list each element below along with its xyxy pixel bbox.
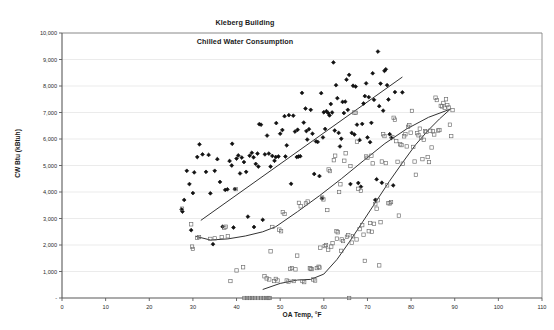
data-point-diamond: [387, 98, 391, 102]
data-point-diamond: [244, 170, 248, 174]
data-point-diamond: [376, 50, 380, 54]
data-point-diamond: [338, 145, 342, 149]
data-point-diamond: [381, 109, 385, 113]
data-point-diamond: [248, 154, 252, 158]
x-axis-tick-label: 20: [146, 304, 152, 310]
data-point-square: [220, 235, 223, 238]
data-point-diamond: [242, 160, 246, 164]
data-point-diamond: [337, 131, 341, 135]
data-point-square: [263, 275, 266, 278]
data-point-square: [404, 133, 407, 136]
data-point-diamond: [362, 102, 366, 106]
data-point-square: [450, 134, 453, 137]
data-point-diamond: [400, 90, 404, 94]
data-point-diamond: [363, 94, 367, 98]
data-point-square: [343, 159, 346, 162]
data-point-square: [375, 207, 378, 210]
y-axis-ticks: -1,0002,0003,0004,0005,0006,0007,0008,00…: [40, 30, 62, 301]
data-point-diamond: [280, 128, 284, 132]
data-point-diamond: [270, 154, 274, 158]
data-point-diamond: [211, 242, 215, 246]
x-axis-tick-label: 110: [538, 304, 547, 310]
data-point-square: [448, 123, 451, 126]
data-point-square: [319, 246, 322, 249]
data-point-diamond: [334, 83, 338, 87]
x-axis-tick-label: 100: [494, 304, 503, 310]
data-point-diamond: [375, 177, 379, 181]
data-point-square: [349, 164, 352, 167]
y-axis-tick-label: 6,000: [43, 136, 57, 142]
data-point-square: [414, 173, 417, 176]
data-point-diamond: [278, 132, 282, 136]
data-point-diamond: [252, 155, 256, 159]
data-point-square: [409, 131, 412, 134]
data-point-diamond: [335, 96, 339, 100]
x-axis-ticks: 0102030405060708090100110: [60, 298, 546, 310]
data-point-diamond: [345, 78, 349, 82]
data-point-diamond: [213, 169, 217, 173]
data-point-diamond: [380, 181, 384, 185]
data-point-diamond: [232, 226, 236, 230]
series-filled-diamond: [180, 50, 405, 246]
chart-container: Kleberg Building Chilled Water Consumpti…: [0, 0, 554, 330]
data-point-diamond: [371, 71, 375, 75]
data-point-diamond: [291, 114, 295, 118]
data-point-square: [332, 159, 335, 162]
data-point-square: [402, 135, 405, 138]
x-axis-tick-label: 10: [103, 304, 109, 310]
data-point-square: [416, 131, 419, 134]
data-point-square: [362, 233, 365, 236]
data-point-diamond: [189, 228, 193, 232]
data-point-diamond: [300, 91, 304, 95]
data-point-diamond: [198, 142, 202, 146]
gridlines: [62, 33, 542, 272]
data-point-square: [397, 214, 400, 217]
y-axis-title-wrapper: CW Btu (kBtuh): [4, 0, 18, 330]
data-point-square: [434, 96, 437, 99]
data-point-diamond: [284, 155, 288, 159]
data-point-square: [344, 152, 347, 155]
data-point-square: [229, 279, 232, 282]
data-point-diamond: [309, 108, 313, 112]
data-point-square: [226, 235, 229, 238]
data-point-diamond: [201, 152, 205, 156]
data-point-diamond: [364, 81, 368, 85]
data-point-diamond: [304, 107, 308, 111]
data-point-diamond: [359, 185, 363, 189]
data-point-square: [447, 106, 450, 109]
data-point-diamond: [346, 108, 350, 112]
data-point-square: [350, 241, 353, 244]
data-point-diamond: [238, 172, 242, 176]
data-point-square: [326, 208, 329, 211]
data-point-square: [371, 162, 374, 165]
data-point-diamond: [246, 215, 250, 219]
y-axis-tick-label: 1,000: [43, 269, 57, 275]
x-axis-tick-label: 90: [452, 304, 458, 310]
data-point-diamond: [339, 137, 343, 141]
data-point-diamond: [320, 196, 324, 200]
data-point-diamond: [342, 111, 346, 115]
data-point-diamond: [204, 170, 208, 174]
y-axis-tick-label: 5,000: [43, 163, 57, 169]
data-point-diamond: [274, 121, 278, 125]
data-point-square: [378, 264, 381, 267]
data-point-diamond: [368, 140, 372, 144]
data-point-diamond: [332, 61, 336, 65]
x-axis-tick-label: 60: [321, 304, 327, 310]
data-point-square: [331, 241, 334, 244]
data-point-diamond: [188, 182, 192, 186]
data-point-square: [421, 157, 424, 160]
data-point-diamond: [215, 157, 219, 161]
data-point-square: [336, 231, 339, 234]
data-point-diamond: [287, 113, 291, 117]
data-point-diamond: [230, 142, 234, 146]
data-point-square: [294, 268, 297, 271]
data-point-diamond: [250, 151, 254, 155]
data-point-diamond: [195, 155, 199, 159]
data-point-square: [396, 160, 399, 163]
x-axis-title: OA Temp, °F: [62, 311, 542, 318]
trendlines: [196, 77, 451, 290]
data-point-square: [333, 154, 336, 157]
data-point-diamond: [185, 169, 189, 173]
data-point-diamond: [369, 121, 373, 125]
